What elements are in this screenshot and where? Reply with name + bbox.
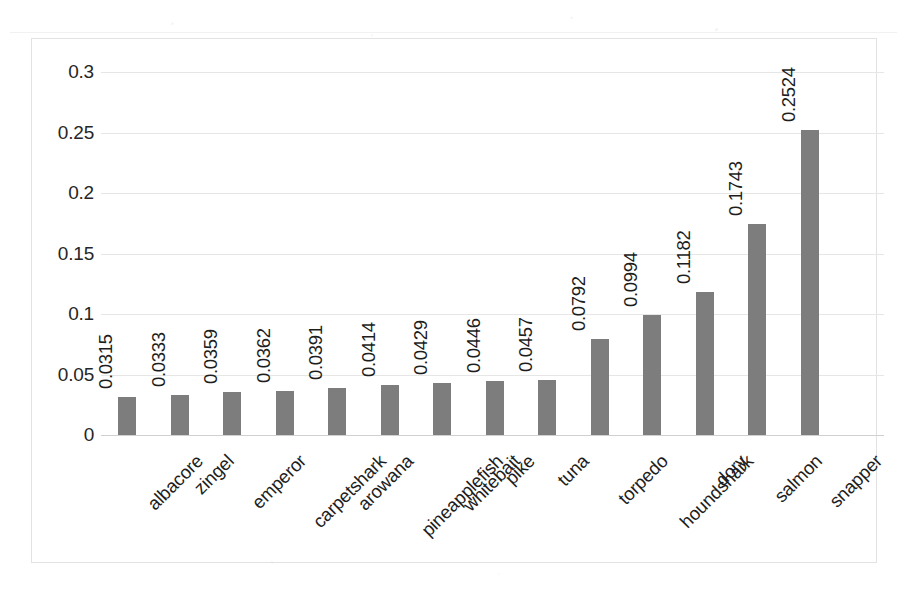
category-slot: albacore bbox=[101, 440, 154, 560]
bar-slot: 0.0414 bbox=[364, 72, 417, 435]
bar[interactable] bbox=[433, 383, 451, 435]
bar-slot: 0.0315 bbox=[101, 72, 154, 435]
bar-slot: 0.1743 bbox=[731, 72, 784, 435]
category-slot: carpetshark bbox=[259, 440, 312, 560]
bar[interactable] bbox=[171, 395, 189, 435]
y-axis-tick-label: 0.2 bbox=[68, 182, 94, 204]
y-axis-tick-label: 0.05 bbox=[58, 364, 94, 386]
bar[interactable] bbox=[328, 388, 346, 435]
bar-value-label: 0.1182 bbox=[673, 231, 695, 284]
category-slot: pineapplefish bbox=[364, 440, 417, 560]
bar-slot: 0.0446 bbox=[469, 72, 522, 435]
category-slot: whitebait bbox=[416, 440, 469, 560]
chart-frame: 00.050.10.150.20.250.3 0.03150.03330.035… bbox=[31, 38, 877, 563]
y-axis-tick-label: 0.3 bbox=[68, 61, 94, 83]
bar-slot: 0.0333 bbox=[154, 72, 207, 435]
bar-slot: 0.0457 bbox=[521, 72, 574, 435]
bar-slot: 0.0792 bbox=[574, 72, 627, 435]
bar-value-label: 0.0457 bbox=[515, 317, 537, 372]
bar-slot: 0.1182 bbox=[679, 72, 732, 435]
bar-value-label: 0.0362 bbox=[253, 328, 275, 383]
category-slot: salmon bbox=[731, 440, 784, 560]
bar-slot: 0.0429 bbox=[416, 72, 469, 435]
bar-slot: 0.0359 bbox=[206, 72, 259, 435]
bar-slot: 0.0362 bbox=[259, 72, 312, 435]
y-axis-tick-label: 0.15 bbox=[58, 243, 94, 265]
bar[interactable] bbox=[223, 392, 241, 435]
bar-value-label: 0.0994 bbox=[620, 252, 642, 307]
bar-value-label: 0.0446 bbox=[463, 318, 485, 373]
bar[interactable] bbox=[696, 292, 714, 435]
bar-slot: 0.0994 bbox=[626, 72, 679, 435]
category-slot: zingel bbox=[154, 440, 207, 560]
category-slot: snapper bbox=[784, 440, 837, 560]
bar-value-label: 0.0429 bbox=[410, 320, 432, 375]
x-axis-category-label: snapper bbox=[825, 450, 887, 512]
bar-series: 0.03150.03330.03590.03620.03910.04140.04… bbox=[101, 72, 884, 435]
category-slot: tuna bbox=[521, 440, 574, 560]
bar-value-label: 0.0333 bbox=[148, 332, 170, 387]
bar-value-label: 0.1743 bbox=[725, 161, 747, 216]
bar[interactable] bbox=[748, 224, 766, 435]
bar-value-label: 0.0391 bbox=[305, 325, 327, 380]
axis-baseline bbox=[101, 435, 884, 436]
bar-value-label: 0.0359 bbox=[200, 329, 222, 384]
bar-slot: 0.0391 bbox=[311, 72, 364, 435]
x-axis-category-labels: albacorezingelemperorcarpetsharkarowanap… bbox=[101, 440, 884, 560]
bar[interactable] bbox=[538, 380, 556, 435]
y-axis: 00.050.10.150.20.250.3 bbox=[32, 72, 94, 435]
bar-value-label: 0.0315 bbox=[95, 334, 117, 389]
bar[interactable] bbox=[118, 397, 136, 435]
bar-slot: 0.2524 bbox=[784, 72, 837, 435]
bar-value-label: 0.0792 bbox=[568, 276, 590, 331]
category-slot: arowana bbox=[311, 440, 364, 560]
category-slot: dory bbox=[679, 440, 732, 560]
scan-artifact-line bbox=[10, 32, 897, 33]
y-axis-tick-label: 0.1 bbox=[68, 303, 94, 325]
category-slot: pike bbox=[469, 440, 522, 560]
bar[interactable] bbox=[801, 130, 819, 435]
bar-value-label: 0.0414 bbox=[358, 322, 380, 377]
category-slot: emperor bbox=[206, 440, 259, 560]
y-axis-tick-label: 0.25 bbox=[58, 122, 94, 144]
bar[interactable] bbox=[486, 381, 504, 435]
bar[interactable] bbox=[276, 391, 294, 435]
bar[interactable] bbox=[591, 339, 609, 435]
category-slot: torpedo bbox=[574, 440, 627, 560]
bar[interactable] bbox=[643, 315, 661, 435]
plot-area: 0.03150.03330.03590.03620.03910.04140.04… bbox=[101, 72, 884, 435]
y-axis-tick-label: 0 bbox=[84, 424, 94, 446]
bar[interactable] bbox=[381, 385, 399, 435]
category-slot: houndshark bbox=[626, 440, 679, 560]
bar-value-label: 0.2524 bbox=[778, 67, 800, 122]
